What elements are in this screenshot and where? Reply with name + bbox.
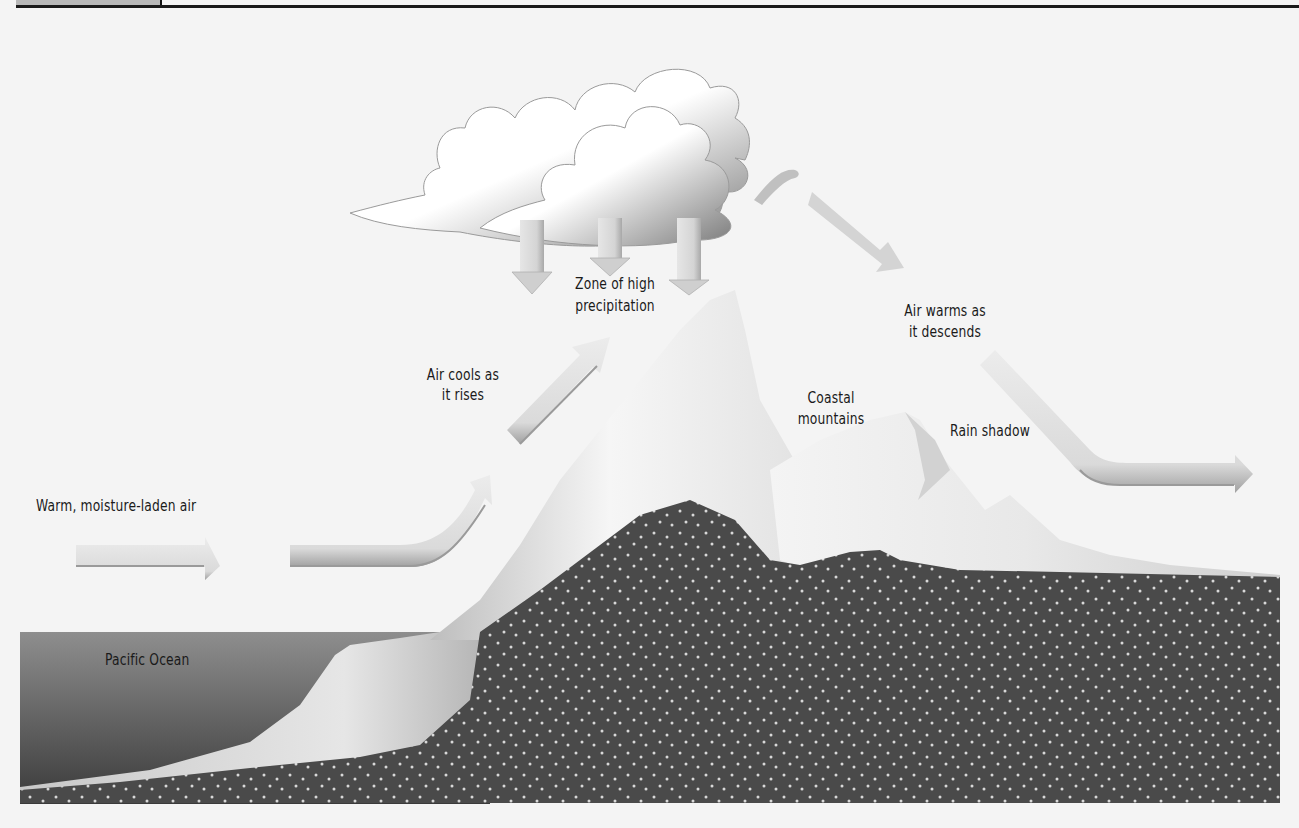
air-flow-arrow-icon [507, 337, 610, 444]
warm-air-label: Warm, moisture-laden air [36, 497, 196, 516]
air-flow-arrow-icon [754, 170, 799, 205]
zone-high-precip-label-line2: precipitation [566, 297, 664, 316]
air-warms-label-line1: Air warms as [896, 302, 994, 321]
coastal-mountains-label-line2: mountains [786, 410, 876, 429]
pacific-ocean-label: Pacific Ocean [105, 651, 189, 670]
zone-high-precip-label-line1: Zone of high [566, 275, 664, 294]
air-cools-label-line1: Air cools as [418, 366, 508, 385]
air-flow-arrow-icon [76, 537, 220, 580]
air-warms-label-line2: it descends [896, 323, 994, 342]
rain-shadow-diagram [0, 0, 1299, 828]
rain-shadow-label: Rain shadow [950, 422, 1030, 441]
coastal-mountains-label-line1: Coastal [786, 389, 876, 408]
air-cools-label-line2: it rises [418, 386, 508, 405]
air-flow-arrow-icon [808, 192, 904, 272]
air-flow-arrow-icon [290, 475, 492, 567]
